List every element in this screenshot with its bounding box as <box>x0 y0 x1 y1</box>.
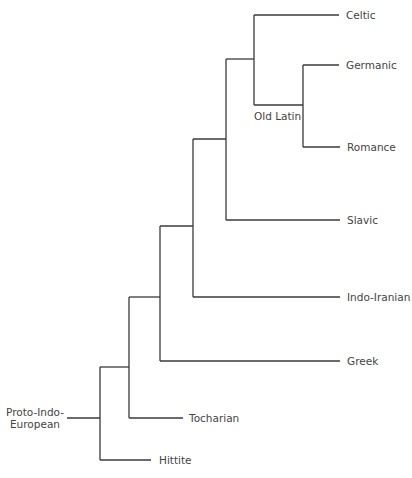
leaf-label-romance: Romance <box>347 141 396 153</box>
leaf-label-hittite: Hittite <box>159 454 192 466</box>
root-label: Proto-Indo- European <box>3 406 67 430</box>
leaf-label-slavic: Slavic <box>347 214 378 226</box>
root-label-line-2: European <box>3 418 67 430</box>
leaf-label-indo-iranian: Indo-Iranian <box>347 291 410 303</box>
root-label-line-1: Proto-Indo- <box>3 406 67 418</box>
leaf-label-celtic: Celtic <box>346 9 376 21</box>
leaf-label-tocharian: Tocharian <box>189 412 239 424</box>
leaf-label-germanic: Germanic <box>346 59 397 71</box>
leaf-label-greek: Greek <box>347 355 378 367</box>
node-label-old-latin: Old Latin <box>254 110 301 122</box>
